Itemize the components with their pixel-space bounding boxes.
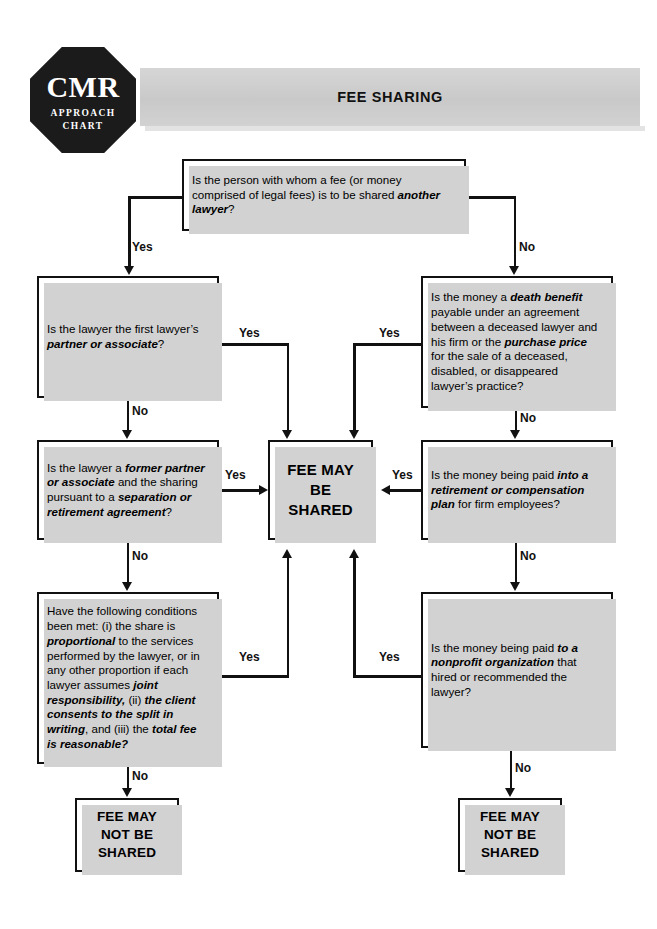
edge-label-right3-no: No [515,761,531,775]
edge-left2-yes-h [219,489,261,492]
edge-right3-yes-h [353,675,423,678]
approach-chart-page: FEE SHARING CMR APPROACH CHART Is the pe… [0,0,657,929]
node-death-benefit[interactable]: Is the money a death benefit payable und… [421,276,613,408]
edge-label-left3-yes: Yes [239,650,260,664]
node-text: Is the lawyer a former partner or associ… [47,461,209,520]
edge-right2-yes-h [390,489,423,492]
edge-right3-no-arrow [505,788,515,797]
edge-label-top-yes: Yes [132,240,153,254]
edge-left3-yes-arrow [282,549,292,558]
edge-right1-yes-h [353,343,423,346]
edge-left1-yes-h [219,343,289,346]
edge-left3-yes-h [219,675,289,678]
node-nonprofit-organization[interactable]: Is the money being paid to a nonprofit o… [421,592,613,748]
logo-brand: CMR [46,72,119,102]
edge-top-yes-v [128,196,131,267]
node-text: Is the lawyer the first lawyer’s partner… [47,322,209,351]
edge-top-no-h [464,196,516,199]
node-retirement-plan[interactable]: Is the money being paid into a retiremen… [421,440,613,540]
edge-label-right1-no: No [520,411,536,425]
node-conditions-met[interactable]: Have the following conditions been met: … [37,592,219,764]
node-fee-not-shared-right[interactable]: FEE MAY NOT BE SHARED [458,798,562,872]
edge-label-right1-yes: Yes [379,326,400,340]
edge-label-right2-yes: Yes [392,468,413,482]
node-fee-not-shared-left[interactable]: FEE MAY NOT BE SHARED [75,798,179,872]
edge-top-no-v [514,196,517,267]
edge-left1-no-v [127,398,130,432]
edge-right3-yes-v [353,558,356,677]
edge-label-left1-yes: Yes [239,326,260,340]
banner-shadow [145,126,645,131]
node-text: FEE MAY NOT BE SHARED [85,808,169,863]
logo-line1: APPROACH [50,107,115,120]
edge-right1-yes-v [353,343,356,431]
node-text: Have the following conditions been met: … [47,604,209,751]
edge-label-right3-yes: Yes [379,650,400,664]
edge-right3-no-v [510,748,513,790]
edge-label-left2-no: No [132,549,148,563]
logo-text: CMR APPROACH CHART [30,47,136,153]
edge-top-no-arrow [509,266,519,275]
edge-left1-yes-v [287,343,290,431]
edge-right2-no-v [515,540,518,584]
node-text: Is the money a death benefit payable und… [431,290,603,393]
edge-label-right2-no: No [520,549,536,563]
edge-top-yes-h [128,196,184,199]
edge-right1-no-v [515,408,518,432]
node-another-lawyer[interactable]: Is the person with whom a fee (or money … [182,159,466,231]
node-text: Is the person with whom a fee (or money … [192,173,456,217]
node-fee-may-be-shared[interactable]: FEE MAY BE SHARED [268,440,373,540]
cmr-logo: CMR APPROACH CHART [30,47,136,153]
edge-left3-yes-v [287,558,290,677]
node-text: FEE MAY NOT BE SHARED [468,808,552,863]
edge-left1-no-arrow [122,430,132,439]
node-text: FEE MAY BE SHARED [278,460,363,519]
edge-right2-yes-arrow [381,485,390,495]
edge-label-left2-yes: Yes [225,468,246,482]
edge-right1-no-arrow [510,430,520,439]
edge-right1-yes-arrow [349,430,359,439]
edge-left2-no-arrow [122,582,132,591]
page-title: FEE SHARING [140,68,640,126]
edge-top-yes-arrow [124,266,134,275]
edge-left3-no-v [127,764,130,790]
edge-left3-no-arrow [122,788,132,797]
edge-label-top-no: No [519,240,535,254]
node-former-partner[interactable]: Is the lawyer a former partner or associ… [37,440,219,540]
node-text: Is the money being paid to a nonprofit o… [431,641,603,700]
edge-left1-yes-arrow [282,430,292,439]
edge-right3-yes-arrow [349,549,359,558]
edge-label-left1-no: No [132,404,148,418]
node-text: Is the money being paid into a retiremen… [431,468,603,512]
edge-right2-no-arrow [510,582,520,591]
edge-left2-yes-arrow [259,485,268,495]
logo-line2: CHART [63,120,104,133]
node-partner-or-associate[interactable]: Is the lawyer the first lawyer’s partner… [37,276,219,398]
edge-left2-no-v [127,540,130,584]
edge-label-left3-no: No [132,769,148,783]
